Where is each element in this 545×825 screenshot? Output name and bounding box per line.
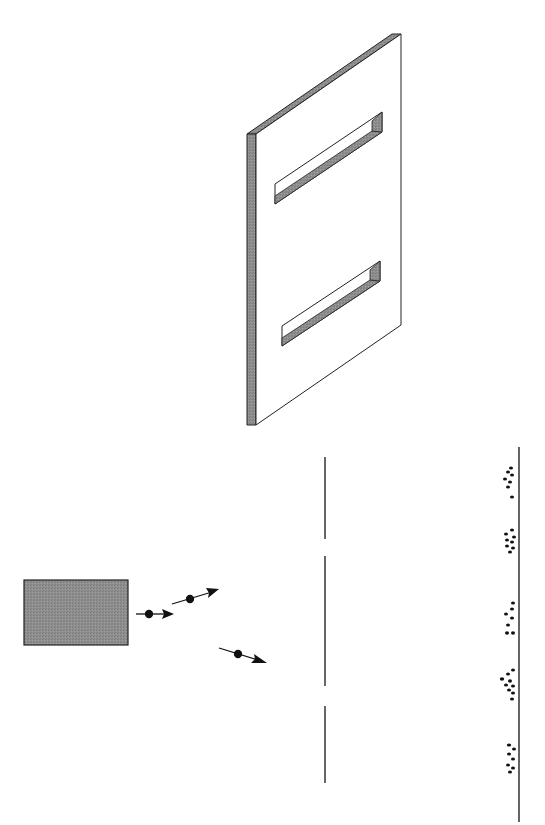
- particle-3: [219, 648, 267, 663]
- hit-band-1: [503, 467, 514, 499]
- hit-band-2: [504, 529, 516, 554]
- particles: [136, 588, 267, 663]
- particle-1: [136, 609, 174, 619]
- hit-band-3: [504, 602, 515, 635]
- hit-band-5: [506, 744, 516, 774]
- particle-source: [24, 580, 128, 645]
- double-slit-diagram: [0, 0, 545, 825]
- hit-clusters: [500, 467, 516, 774]
- particle-2: [172, 588, 219, 604]
- slit-plate-3d: [247, 34, 401, 425]
- hit-band-4: [500, 669, 515, 701]
